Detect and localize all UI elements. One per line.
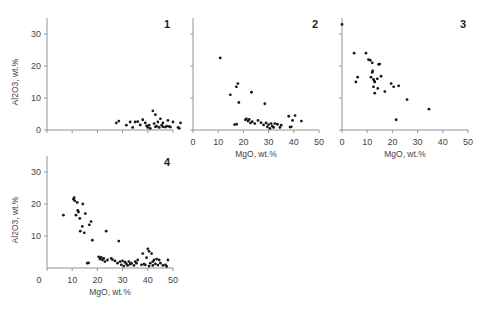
- data-point: [300, 120, 303, 123]
- y-axis-title: Al2O3, wt.%: [10, 58, 20, 105]
- x-tick-label: 20: [387, 137, 397, 147]
- data-point: [294, 114, 297, 117]
- data-point: [428, 108, 431, 111]
- x-tick-label: 10: [67, 275, 77, 285]
- data-point: [111, 258, 114, 261]
- data-point: [136, 259, 139, 262]
- data-point: [120, 263, 123, 266]
- data-point: [90, 220, 93, 223]
- data-point: [370, 76, 373, 79]
- data-point: [156, 264, 159, 267]
- data-point: [135, 262, 138, 265]
- data-point: [378, 63, 381, 66]
- data-point: [341, 23, 344, 26]
- x-axis-title: MgO, wt.%: [89, 287, 131, 297]
- data-point: [236, 82, 239, 85]
- x-axis-title: MgO, wt.%: [384, 149, 426, 159]
- x-tick-label: 30: [413, 137, 423, 147]
- x-tick-label: 40: [289, 137, 299, 147]
- data-point: [73, 199, 76, 202]
- figure-canvas: 0102030Al2O3, wt.%101020304050MgO, wt.%2…: [0, 0, 488, 310]
- data-point: [125, 124, 128, 127]
- x-tick-label: 20: [238, 137, 248, 147]
- data-point: [162, 122, 165, 125]
- x-axis-title: MgO, wt.%: [235, 149, 277, 159]
- data-point: [235, 123, 238, 126]
- panel-number: 4: [164, 156, 171, 168]
- data-point: [129, 121, 132, 124]
- data-point: [356, 76, 359, 79]
- data-point: [136, 120, 139, 123]
- x-tick-label: 30: [118, 275, 128, 285]
- data-point: [235, 85, 238, 88]
- x-tick-label: 10: [213, 137, 223, 147]
- data-point: [383, 90, 386, 93]
- data-point: [270, 122, 273, 125]
- data-point: [78, 217, 81, 220]
- data-point: [146, 247, 149, 250]
- data-point: [276, 123, 279, 126]
- data-point: [353, 52, 356, 55]
- x-tick-label: 10: [362, 137, 372, 147]
- data-point: [141, 252, 144, 255]
- data-point: [159, 117, 162, 120]
- data-point: [167, 119, 170, 122]
- panel-number: 3: [460, 18, 466, 30]
- scatter-panel-3: 01020304050MgO, wt.%3: [339, 18, 473, 159]
- data-point: [88, 223, 91, 226]
- data-point: [267, 123, 270, 126]
- data-point: [354, 81, 357, 84]
- data-point: [280, 124, 283, 127]
- data-point: [151, 109, 154, 112]
- y-tick-label: 30: [31, 167, 41, 177]
- data-point: [151, 260, 154, 263]
- data-point: [127, 260, 130, 263]
- data-point: [106, 259, 109, 262]
- data-point: [291, 119, 294, 122]
- data-point: [159, 262, 162, 265]
- data-point: [141, 118, 144, 121]
- data-point: [392, 85, 395, 88]
- data-point: [169, 126, 172, 129]
- data-point: [83, 231, 86, 234]
- y-tick-label: 10: [31, 93, 41, 103]
- data-point: [265, 122, 268, 125]
- data-point: [172, 121, 175, 124]
- data-point: [376, 77, 379, 80]
- data-point: [119, 260, 122, 263]
- data-point: [158, 126, 161, 129]
- x-tick-label: 50: [314, 137, 324, 147]
- data-point: [165, 125, 168, 128]
- data-point: [380, 75, 383, 78]
- y-tick-label: 0: [36, 125, 41, 135]
- y-tick-label: 30: [31, 29, 41, 39]
- data-point: [251, 120, 254, 123]
- x-tick-label: 50: [463, 137, 473, 147]
- data-point: [178, 127, 181, 130]
- data-point: [117, 120, 120, 123]
- x-tick-label: 0: [36, 275, 41, 285]
- data-point: [134, 121, 137, 124]
- data-point: [268, 127, 271, 130]
- data-point: [149, 127, 152, 130]
- data-point: [116, 262, 119, 265]
- data-point: [290, 125, 293, 128]
- y-tick-label: 20: [31, 199, 41, 209]
- data-point: [274, 122, 277, 125]
- data-point: [219, 57, 222, 60]
- data-point: [167, 259, 170, 262]
- data-point: [156, 121, 159, 124]
- data-point: [102, 257, 105, 260]
- x-tick-label: 40: [143, 275, 153, 285]
- data-point: [145, 256, 148, 259]
- data-point: [148, 265, 151, 268]
- panel-number: 1: [164, 18, 170, 30]
- data-point: [73, 196, 76, 199]
- data-point: [397, 84, 400, 87]
- data-point: [62, 214, 65, 217]
- data-point: [76, 201, 79, 204]
- data-point: [148, 124, 151, 127]
- data-point: [87, 261, 90, 264]
- scatter-panel-4: 10203001020304050MgO, wt.%Al2O3, wt.%4: [10, 156, 178, 297]
- data-point: [151, 264, 154, 267]
